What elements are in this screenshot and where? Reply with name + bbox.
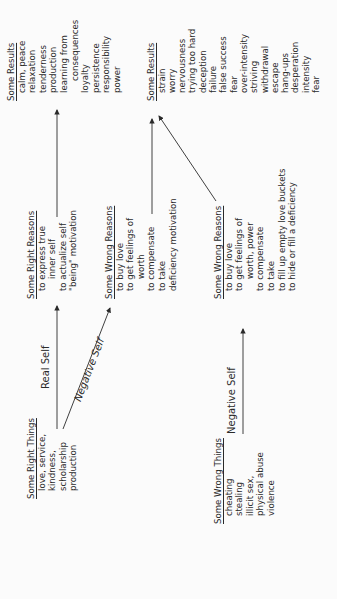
list-item: loyalty [80,20,91,93]
list-item: love, service, [37,418,48,491]
list-item: to compensate [255,169,266,291]
list-item: worth, power [245,169,256,291]
list-item: escape [270,29,280,93]
list-item: power [112,20,123,93]
list-item: calm, peace [17,20,28,93]
list-item: cheating [224,438,235,516]
list-item: nervousness [177,29,187,93]
list-item: stealing [234,438,245,516]
wrong-reasons-1-header: Some Wrong Reasons [104,198,115,299]
list-item: to express true [37,210,48,291]
list-item: "being" motivation [68,210,79,291]
list-item: to compensate [146,198,157,291]
list-item: fear [311,29,321,93]
right-reasons-block: Some Right Reasons to express true inner… [26,210,79,299]
list-item: fear [229,29,239,93]
bad-results-header: Some Results [146,29,157,101]
right-reasons-header: Some Right Reasons [26,210,37,299]
list-item: violence [266,438,277,516]
list-item: hang-ups [280,29,290,93]
list-item: over-intensity [239,29,249,93]
right-things-block: Some Right Things love, service, kindnes… [26,418,79,499]
list-item: persistence [91,20,102,93]
list-item: production [68,418,79,491]
wrong-reasons-2-block: Some Wrong Reasons to buy love to get fe… [213,169,298,299]
list-item: responsibility [101,20,112,93]
list-item: strain [157,29,167,93]
list-item: trying too hard [187,29,197,93]
list-item: to actualize self [58,210,69,291]
list-item: inner self [47,210,58,291]
list-item: to buy love [224,169,235,291]
list-item: intensity [301,29,311,93]
list-item: false success [218,29,228,93]
list-item: production [48,20,59,93]
list-item: to buy love [115,198,126,291]
list-item: to get feelings of [125,198,136,291]
list-item: kindness, [47,418,58,491]
wrong-things-block: Some Wrong Things cheating stealing illi… [213,438,277,524]
good-results-header: Some Results [6,20,17,101]
list-item: withdrawal [260,29,270,93]
list-item: deficiency motivation [168,198,179,291]
diagram-canvas: Some Right Things love, service, kindnes… [0,0,337,599]
list-item: physical abuse [255,438,266,516]
list-item: illicit sex, [245,438,256,516]
list-item: worry [167,29,177,93]
list-item: deception [198,29,208,93]
list-item: tenderness [38,20,49,93]
list-item: relaxation [27,20,38,93]
list-item: worth [136,198,147,291]
wrong-things-header: Some Wrong Things [213,438,224,524]
list-item: to fill up empty love buckets [277,169,288,291]
negative-self-label: Negative Self [226,367,237,434]
bad-results-block: Some Results strain worry nervousness tr… [146,29,321,101]
wrong-reasons-2-header: Some Wrong Reasons [213,169,224,299]
list-item: failure [208,29,218,93]
real-self-label: Real Self [40,345,51,389]
list-item: learning from [59,20,70,93]
list-item: to hide or fill a deficiency [287,169,298,291]
list-item: desperation [290,29,300,93]
list-item: to take [266,169,277,291]
good-results-block: Some Results calm, peace relaxation tend… [6,20,123,101]
wrong-reasons-1-block: Some Wrong Reasons to buy love to get fe… [104,198,178,299]
list-item: to take [157,198,168,291]
right-things-header: Some Right Things [26,418,37,499]
list-item: striving [249,29,259,93]
list-item: scholarship [58,418,69,491]
list-item: to get feelings of [234,169,245,291]
list-item: consequences [70,20,81,93]
